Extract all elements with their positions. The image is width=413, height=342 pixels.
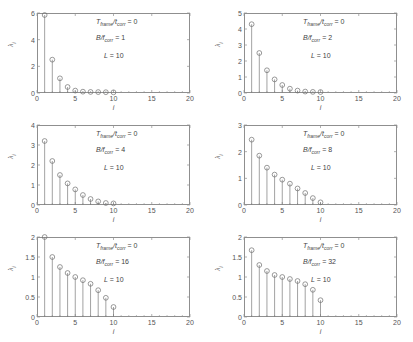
x-tick-label: 0 <box>35 95 39 102</box>
y-tick-label: 1 <box>1 274 35 281</box>
x-tick-label: 5 <box>280 95 284 102</box>
x-axis-label: i <box>37 104 190 111</box>
y-tick-label: 2 <box>208 58 242 65</box>
y-tick-label: 1 <box>208 274 242 281</box>
x-tick-label: 20 <box>393 207 401 214</box>
y-tick-label: 2 <box>1 162 35 169</box>
y-tick-label: 2 <box>1 234 35 241</box>
y-tick-label: 2 <box>208 234 242 241</box>
annotation-L-value: L = 10 <box>104 52 124 59</box>
annotation-L-value: L = 10 <box>311 52 331 59</box>
annotation-bandwidth-ratio: B/fcorr = 2 <box>303 34 332 43</box>
panel-1: 024605101520λiiTframe/tcorr = 0B/fcorr =… <box>0 0 206 114</box>
y-axis-ticks: 00.511.52 <box>207 237 242 317</box>
y-axis-ticks: 0246 <box>0 13 35 93</box>
y-tick-label: 0 <box>208 314 242 321</box>
x-tick-label: 5 <box>73 207 77 214</box>
annotation-bandwidth-ratio: B/fcorr = 16 <box>96 258 129 267</box>
y-tick-label: 3 <box>208 122 242 129</box>
annotation-L-value: L = 10 <box>104 164 124 171</box>
y-axis-label: λi <box>214 32 223 58</box>
y-tick-label: 0 <box>1 202 35 209</box>
panel-6: 00.511.5205101520λiiTframe/tcorr = 0B/fc… <box>207 224 413 338</box>
x-tick-label: 10 <box>110 207 118 214</box>
y-tick-label: 0 <box>1 314 35 321</box>
panel-4: 012305101520λiiTframe/tcorr = 0B/fcorr =… <box>207 112 413 226</box>
x-tick-label: 15 <box>148 95 156 102</box>
y-axis-label: λi <box>7 32 16 58</box>
annotation-tframe-ratio: Tframe/tcorr = 0 <box>303 130 344 139</box>
annotation-bandwidth-ratio: B/fcorr = 8 <box>303 146 332 155</box>
x-tick-label: 5 <box>73 95 77 102</box>
panel-2: 01234505101520λiiTframe/tcorr = 0B/fcorr… <box>207 0 413 114</box>
panel-3: 0123405101520λiiTframe/tcorr = 0B/fcorr … <box>0 112 206 226</box>
x-tick-label: 5 <box>280 319 284 326</box>
annotation-tframe-ratio: Tframe/tcorr = 0 <box>96 130 137 139</box>
y-axis-label: λi <box>214 256 223 282</box>
y-axis-label: λi <box>7 256 16 282</box>
x-tick-label: 0 <box>35 207 39 214</box>
y-tick-label: 0.5 <box>208 294 242 301</box>
y-tick-label: 0.5 <box>1 294 35 301</box>
y-tick-label: 5 <box>208 10 242 17</box>
y-tick-label: 4 <box>208 26 242 33</box>
annotation-L-value: L = 10 <box>311 164 331 171</box>
x-tick-label: 0 <box>242 207 246 214</box>
annotation-bandwidth-ratio: B/fcorr = 4 <box>96 146 125 155</box>
annotation-bandwidth-ratio: B/fcorr = 1 <box>96 34 125 43</box>
y-tick-label: 1.5 <box>208 254 242 261</box>
annotation-L-value: L = 10 <box>311 276 331 283</box>
annotation-L-value: L = 10 <box>104 276 124 283</box>
x-tick-label: 0 <box>35 319 39 326</box>
annotation-tframe-ratio: Tframe/tcorr = 0 <box>96 242 137 251</box>
y-axis-ticks: 0123 <box>207 125 242 205</box>
x-tick-label: 10 <box>317 95 325 102</box>
y-tick-label: 0 <box>208 202 242 209</box>
y-axis-label: λi <box>7 144 16 170</box>
x-tick-label: 15 <box>148 319 156 326</box>
x-tick-label: 10 <box>317 207 325 214</box>
figure-panel-grid: 024605101520λiiTframe/tcorr = 0B/fcorr =… <box>0 0 413 342</box>
y-tick-label: 2 <box>1 63 35 70</box>
x-tick-label: 5 <box>73 319 77 326</box>
annotation-tframe-ratio: Tframe/tcorr = 0 <box>96 18 137 27</box>
annotation-tframe-ratio: Tframe/tcorr = 0 <box>303 242 344 251</box>
y-axis-ticks: 01234 <box>0 125 35 205</box>
x-axis-label: i <box>244 328 397 335</box>
x-tick-label: 10 <box>317 319 325 326</box>
y-tick-label: 0 <box>208 90 242 97</box>
x-tick-label: 20 <box>393 319 401 326</box>
x-tick-label: 10 <box>110 95 118 102</box>
y-tick-label: 1 <box>1 182 35 189</box>
x-axis-label: i <box>244 216 397 223</box>
x-axis-label: i <box>244 104 397 111</box>
x-axis-label: i <box>37 328 190 335</box>
x-tick-label: 10 <box>110 319 118 326</box>
y-tick-label: 0 <box>1 90 35 97</box>
y-axis-ticks: 012345 <box>207 13 242 93</box>
x-tick-label: 0 <box>242 319 246 326</box>
y-tick-label: 4 <box>1 36 35 43</box>
y-tick-label: 1.5 <box>1 254 35 261</box>
x-tick-label: 20 <box>186 95 194 102</box>
y-tick-label: 2 <box>208 148 242 155</box>
x-tick-label: 15 <box>355 207 363 214</box>
annotation-tframe-ratio: Tframe/tcorr = 0 <box>303 18 344 27</box>
annotation-bandwidth-ratio: B/fcorr = 32 <box>303 258 336 267</box>
y-tick-label: 1 <box>208 74 242 81</box>
x-tick-label: 5 <box>280 207 284 214</box>
x-tick-label: 15 <box>148 207 156 214</box>
y-tick-label: 1 <box>208 175 242 182</box>
panel-5: 00.511.5205101520λiiTframe/tcorr = 0B/fc… <box>0 224 206 338</box>
x-tick-label: 0 <box>242 95 246 102</box>
x-tick-label: 20 <box>393 95 401 102</box>
x-tick-label: 15 <box>355 319 363 326</box>
x-tick-label: 20 <box>186 207 194 214</box>
x-axis-label: i <box>37 216 190 223</box>
y-tick-label: 3 <box>1 142 35 149</box>
y-tick-label: 4 <box>1 122 35 129</box>
x-tick-label: 20 <box>186 319 194 326</box>
y-axis-label: λi <box>214 144 223 170</box>
x-tick-label: 15 <box>355 95 363 102</box>
y-axis-ticks: 00.511.52 <box>0 237 35 317</box>
